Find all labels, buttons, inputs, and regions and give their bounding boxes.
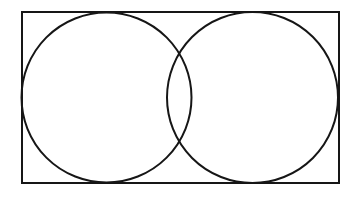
geometry-diagram (0, 0, 360, 199)
figure-canvas (0, 0, 360, 199)
